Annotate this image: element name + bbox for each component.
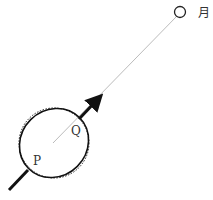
arrow-from-q — [79, 100, 97, 119]
point-p-label: P — [33, 155, 41, 167]
tidal-diagram: 月 P Q — [0, 0, 213, 200]
diagram-canvas — [0, 0, 213, 200]
point-q-label: Q — [71, 125, 81, 137]
moon-circle — [175, 7, 186, 18]
arrow-to-p — [9, 170, 28, 190]
moon-label: 月 — [198, 7, 210, 19]
